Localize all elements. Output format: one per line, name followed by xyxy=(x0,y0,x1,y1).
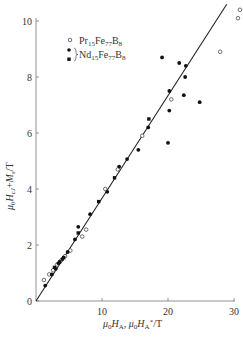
data-point-filled-circle xyxy=(73,238,77,242)
scatter-chart: 0246810 102030 Pr15Fe77B8 Nd15Fe77B8 μ0H… xyxy=(0,0,243,337)
data-point-filled-square xyxy=(147,117,150,120)
x-tick-label: 20 xyxy=(163,306,173,317)
data-point-filled-circle xyxy=(166,141,170,145)
data-point-open-circle xyxy=(238,8,242,12)
data-point-filled-circle xyxy=(117,165,121,169)
data-point-filled-circle xyxy=(88,212,92,216)
legend-brace-icon xyxy=(74,48,78,61)
data-point-open-circle xyxy=(42,278,46,282)
y-ticks: 0246810 xyxy=(22,16,39,307)
data-point-open-circle xyxy=(80,235,84,239)
y-tick-label: 0 xyxy=(27,296,32,307)
legend: Pr15Fe77B8 Nd15Fe77B8 xyxy=(67,35,126,62)
data-point-filled-square xyxy=(97,200,100,203)
legend-label-nd: Nd15Fe77B8 xyxy=(79,49,126,62)
y-axis-label: μ0HcJ+Ms/T xyxy=(4,162,17,211)
y-tick-label: 8 xyxy=(27,72,32,83)
legend-label-pr: Pr15Fe77B8 xyxy=(79,35,123,48)
data-point-filled-circle xyxy=(50,273,54,277)
data-point-open-circle xyxy=(84,228,88,232)
data-point-open-circle xyxy=(170,98,174,102)
data-point-filled-circle xyxy=(177,61,181,65)
data-point-filled-circle xyxy=(182,93,186,97)
legend-open-circle-icon xyxy=(68,38,72,42)
data-point-filled-square xyxy=(53,266,56,269)
y-tick-label: 4 xyxy=(27,184,32,195)
data-point-filled-circle xyxy=(136,148,140,152)
data-point-filled-circle xyxy=(43,284,47,288)
data-point-filled-square xyxy=(58,260,61,263)
data-point-filled-circle xyxy=(167,89,171,93)
data-point-filled-circle xyxy=(76,225,80,229)
y-tick-label: 2 xyxy=(27,240,32,251)
data-point-filled-circle xyxy=(167,109,171,113)
y-tick-label: 10 xyxy=(22,16,32,27)
data-point-filled-circle xyxy=(125,157,129,161)
data-point-filled-circle xyxy=(198,100,202,104)
data-point-filled-circle xyxy=(184,64,188,68)
y-tick-label: 6 xyxy=(27,128,32,139)
data-point-filled-square xyxy=(113,176,116,179)
data-point-open-circle xyxy=(218,50,222,54)
legend-filled-square-icon xyxy=(67,58,70,61)
data-point-filled-square xyxy=(77,231,80,234)
data-point-open-circle xyxy=(236,16,240,20)
data-point-filled-circle xyxy=(66,250,70,254)
data-point-filled-circle xyxy=(146,126,150,130)
data-point-open-circle xyxy=(140,134,144,138)
x-axis-label: μ0HA, μ0HA*/T xyxy=(102,318,162,331)
data-point-filled-circle xyxy=(105,190,109,194)
x-tick-label: 30 xyxy=(229,306,239,317)
data-point-filled-square xyxy=(62,256,65,259)
data-point-filled-circle xyxy=(160,56,164,60)
data-point-filled-circle xyxy=(183,75,187,79)
legend-filled-circle-icon xyxy=(67,48,71,52)
x-tick-label: 10 xyxy=(97,306,107,317)
